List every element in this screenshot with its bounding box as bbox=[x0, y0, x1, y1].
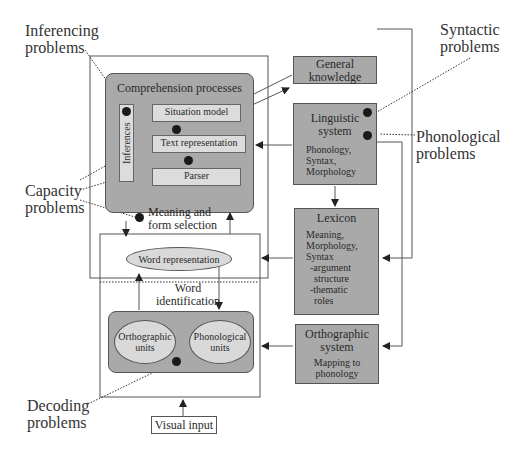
phonological-problem-dot bbox=[363, 131, 372, 140]
list-item: Syntax, bbox=[306, 155, 376, 166]
phonological-problems-label: Phonological problems bbox=[416, 128, 500, 162]
label-line: problems bbox=[25, 39, 99, 56]
word-representation-ellipse: Word representation bbox=[126, 247, 232, 271]
list-item: -thematic bbox=[306, 284, 378, 295]
label-line: problems bbox=[416, 145, 500, 162]
general-knowledge-box: General knowledge bbox=[293, 56, 377, 84]
capacity-problem-dot bbox=[135, 213, 144, 222]
visual-input-label: Visual input bbox=[155, 418, 213, 432]
list-item: Syntax bbox=[306, 251, 378, 262]
word-identification-label: Word identification bbox=[148, 282, 228, 308]
text-representation-label: Text representation bbox=[161, 137, 238, 148]
label-line: knowledge bbox=[294, 71, 376, 84]
syntactic-problem-dot bbox=[363, 108, 372, 117]
syntactic-problems-label: Syntactic problems bbox=[440, 21, 500, 55]
label-line: Capacity bbox=[25, 182, 85, 199]
inferencing-problem-dot bbox=[122, 107, 131, 116]
inferencing-problems-label: Inferencing problems bbox=[25, 22, 99, 56]
label-line: Orthographic bbox=[118, 331, 171, 342]
list-item: Morphology, bbox=[306, 240, 378, 251]
label-line: form selection bbox=[148, 219, 217, 232]
list-item: roles bbox=[306, 295, 378, 306]
inferences-label: Inferences bbox=[120, 122, 134, 164]
label-line: Syntactic bbox=[440, 21, 500, 38]
label-line: units bbox=[118, 342, 171, 353]
list-item: -argument bbox=[306, 262, 378, 273]
label-line: problems bbox=[440, 38, 500, 55]
visual-input-box: Visual input bbox=[151, 416, 217, 434]
parser-box: Parser bbox=[152, 168, 241, 186]
word-representation-label: Word representation bbox=[138, 254, 219, 265]
orthographic-units-ellipse: Orthographic units bbox=[114, 320, 176, 364]
label-line: Inferencing bbox=[25, 22, 99, 39]
meaning-form-selection-label: Meaning and form selection bbox=[148, 206, 217, 232]
list-item: structure bbox=[306, 273, 378, 284]
text-representation-box: Text representation bbox=[152, 135, 246, 153]
lexicon-title: Lexicon bbox=[295, 212, 378, 225]
list-item: Phonology, bbox=[306, 144, 376, 155]
phonological-units-ellipse: Phonological units bbox=[189, 320, 251, 364]
capacity-problem-dot bbox=[184, 156, 193, 165]
diagram-connectors bbox=[0, 0, 517, 451]
capacity-problems-label: Capacity problems bbox=[25, 182, 85, 216]
list-item: Morphology bbox=[306, 166, 376, 177]
label-line: problems bbox=[25, 199, 85, 216]
decoding-problem-dot bbox=[172, 357, 181, 366]
capacity-problem-dot bbox=[172, 125, 181, 134]
list-item: Mapping to bbox=[296, 357, 378, 368]
label-line: Phonological bbox=[416, 128, 500, 145]
list-item: phonology bbox=[296, 368, 378, 379]
label-line: Phonological bbox=[194, 331, 247, 342]
label-line: system bbox=[296, 341, 378, 354]
situation-model-label: Situation model bbox=[165, 106, 229, 117]
situation-model-box: Situation model bbox=[152, 104, 241, 122]
label-line: identification bbox=[148, 295, 228, 308]
parser-label: Parser bbox=[184, 170, 209, 181]
comprehension-title: Comprehension processes bbox=[106, 82, 253, 95]
label-line: problems bbox=[27, 414, 89, 431]
list-item: Meaning, bbox=[306, 229, 378, 240]
label-line: Decoding bbox=[27, 397, 89, 414]
decoding-problems-label: Decoding problems bbox=[27, 397, 89, 431]
lexicon-box: Lexicon Meaning, Morphology, Syntax -arg… bbox=[294, 208, 379, 315]
orthographic-system-box: Orthographic system Mapping to phonology bbox=[295, 324, 379, 384]
label-line: units bbox=[194, 342, 247, 353]
